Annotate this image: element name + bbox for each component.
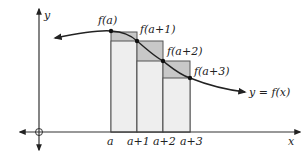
- tick-a2: a+2: [153, 135, 176, 148]
- tick-a1: a+1: [127, 135, 150, 148]
- rect-1-lower: [111, 41, 137, 132]
- y-axis-label: y: [43, 9, 51, 22]
- point-fa3: [188, 76, 192, 80]
- point-fa2: [161, 59, 165, 63]
- riemann-sum-diagram: y x f(a) f(a+1) f(a+2) f(a+3) y = f(x) a…: [0, 0, 308, 156]
- curve-label: y = f(x): [248, 86, 290, 99]
- rect-3-lower: [163, 78, 190, 132]
- x-axis-label: x: [288, 135, 295, 148]
- rect-2-lower: [137, 61, 163, 132]
- tick-a3: a+3: [180, 135, 203, 148]
- point-fa: [109, 29, 113, 33]
- label-fa1: f(a+1): [139, 23, 175, 36]
- label-fa3: f(a+3): [193, 65, 229, 78]
- label-fa2: f(a+2): [166, 45, 202, 58]
- label-fa: f(a): [97, 14, 117, 27]
- tick-a: a: [107, 135, 114, 148]
- point-fa1: [135, 39, 139, 43]
